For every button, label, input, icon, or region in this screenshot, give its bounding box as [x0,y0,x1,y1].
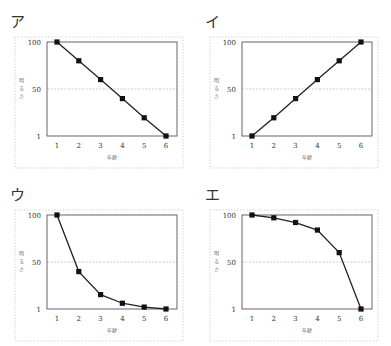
data-point-marker [337,58,342,63]
y-tick-label: 100 [223,212,236,220]
data-point-marker [249,133,254,138]
y-axis-label: さ [19,266,24,272]
data-point-marker [54,212,59,217]
y-axis-label: さ [214,93,219,99]
data-point-marker [271,215,276,220]
y-tick-label: 100 [28,39,41,47]
y-tick-label: 1 [232,306,236,314]
x-tick-label: 4 [315,315,320,323]
data-point-marker [142,304,147,309]
y-tick-label: 1 [37,133,41,141]
y-tick-label: 100 [28,212,41,220]
y-tick-label: 50 [32,86,41,94]
data-point-marker [163,306,168,311]
y-axis-label: さ [19,93,24,99]
y-axis-label: る [214,258,219,264]
x-axis-label: 年齢 [107,154,117,161]
x-tick-label: 3 [293,142,297,150]
x-tick-label: 2 [77,315,81,323]
x-tick-label: 6 [164,315,169,323]
x-tick-label: 5 [337,142,341,150]
x-tick-label: 3 [98,315,102,323]
x-tick-label: 5 [337,315,341,323]
data-point-marker [163,133,168,138]
x-tick-label: 5 [142,142,146,150]
data-point-marker [142,115,147,120]
line-chart: 150100123456年齢明るさ [0,173,195,346]
line-chart: 150100123456年齢明るさ [195,173,391,346]
y-tick-label: 1 [232,133,236,141]
x-tick-label: 3 [293,315,297,323]
data-point-marker [120,301,125,306]
x-tick-label: 4 [120,315,125,323]
data-point-marker [337,250,342,255]
y-tick-label: 50 [227,86,236,94]
x-tick-label: 1 [250,315,254,323]
y-tick-label: 50 [227,259,236,267]
data-point-marker [120,96,125,101]
data-point-marker [315,77,320,82]
x-tick-label: 4 [120,142,125,150]
y-axis-label: る [19,258,24,264]
chart-panel-a: ア 150100123456年齢明るさ [0,0,195,173]
x-tick-label: 5 [142,315,146,323]
data-point-marker [76,58,81,63]
x-tick-label: 6 [164,142,169,150]
x-tick-label: 3 [98,142,102,150]
x-axis-label: 年齢 [107,327,117,334]
line-chart: 150100123456年齢明るさ [195,0,391,173]
y-axis-label: る [214,85,219,91]
x-tick-label: 1 [55,142,59,150]
x-tick-label: 1 [55,315,59,323]
data-point-marker [315,227,320,232]
y-axis-label: 明 [19,250,24,257]
chart-panel-u: ウ 150100123456年齢明るさ [0,173,195,346]
data-point-marker [76,269,81,274]
y-axis-label: 明 [214,77,219,84]
line-chart: 150100123456年齢明るさ [0,0,195,173]
y-tick-label: 1 [37,306,41,314]
x-tick-label: 4 [315,142,320,150]
data-point-marker [293,96,298,101]
y-axis-label: 明 [19,77,24,84]
chart-panel-i: イ 150100123456年齢明るさ [195,0,390,173]
data-point-marker [249,212,254,217]
data-point-marker [271,115,276,120]
x-tick-label: 6 [359,315,364,323]
data-point-marker [358,39,363,44]
y-axis-label: る [19,85,24,91]
x-tick-label: 2 [272,142,276,150]
x-axis-label: 年齢 [302,327,312,334]
data-point-marker [293,220,298,225]
y-tick-label: 100 [223,39,236,47]
chart-panel-e: エ 150100123456年齢明るさ [195,173,390,346]
x-tick-label: 1 [250,142,254,150]
y-tick-label: 50 [32,259,41,267]
data-point-marker [98,292,103,297]
data-point-marker [358,306,363,311]
y-axis-label: さ [214,266,219,272]
x-axis-label: 年齢 [302,154,312,161]
x-tick-label: 2 [272,315,276,323]
x-tick-label: 6 [359,142,364,150]
data-point-marker [54,39,59,44]
data-point-marker [98,77,103,82]
y-axis-label: 明 [214,250,219,257]
x-tick-label: 2 [77,142,81,150]
